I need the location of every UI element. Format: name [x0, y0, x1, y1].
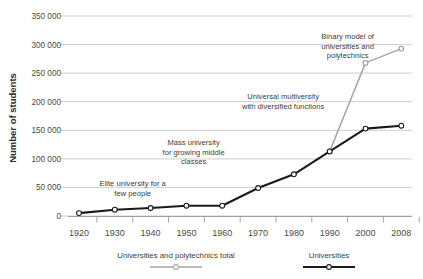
x-axis-tick-label: 2000: [355, 228, 375, 238]
x-axis-tickmarks: [97, 217, 419, 223]
y-axis-tick-label: 200 000: [31, 98, 61, 107]
x-axis-tick-label: 1920: [69, 228, 89, 238]
y-axis-tick-label: 250 000: [31, 69, 61, 78]
x-axis-tick-label: 1930: [105, 228, 125, 238]
universities-point: [112, 207, 117, 212]
universities-point: [184, 203, 189, 208]
x-axis-tick-label: 1970: [248, 228, 268, 238]
y-axis-tick-label: 150 000: [31, 126, 61, 135]
y-axis-tick-label: 50 000: [36, 183, 61, 192]
total-point: [363, 61, 368, 66]
total-point: [399, 46, 404, 51]
y-axis-tick-label: 100 000: [31, 155, 61, 164]
annotation-line: Elite university for a: [100, 179, 167, 188]
universities-point: [220, 203, 225, 208]
universities-point: [77, 211, 82, 216]
annotation-line: polytechnics: [327, 51, 369, 60]
universities-line: [79, 126, 401, 213]
legend-label: Universities and polytechnics total: [117, 251, 235, 260]
series-universities: [77, 123, 404, 215]
annotation-line: few people: [114, 189, 151, 198]
legend-swatch-marker: [174, 265, 179, 270]
chart-annotations: Elite university for afew peopleMass uni…: [100, 32, 375, 198]
x-axis-tick-label: 1990: [320, 228, 340, 238]
annotation-line: universities and: [321, 42, 374, 51]
universities-point: [363, 126, 368, 131]
line-chart: 350 000300 000250 000200 000150 000100 0…: [0, 0, 423, 279]
y-axis-tick-label: 350 000: [31, 12, 61, 21]
universities-point: [148, 206, 153, 211]
y-axis-tick-label: 300 000: [31, 41, 61, 50]
y-axis-tick-label: 0: [56, 212, 61, 221]
x-axis-tick-labels: 1920193019401950196019701980199020002008: [69, 228, 411, 238]
x-axis-tick-label: 1950: [176, 228, 196, 238]
annotation-line: Mass university: [167, 138, 220, 147]
universities-point: [399, 123, 404, 128]
universities-point: [292, 172, 297, 177]
annotation-line: Universal multiversity: [247, 92, 319, 101]
x-axis-tick-label: 2008: [391, 228, 411, 238]
legend-swatch-marker: [327, 265, 332, 270]
y-axis-title: Number of students: [7, 73, 18, 163]
annotation-line: classes: [181, 157, 207, 166]
x-axis-tick-label: 1940: [141, 228, 161, 238]
annotation-line: for growing middle: [163, 148, 225, 157]
chart-legend: Universities and polytechnics totalUnive…: [117, 251, 355, 269]
series-universities-and-polytechnics-total: [327, 46, 403, 154]
annotation-line: with diversified functions: [241, 102, 325, 111]
universities-point: [256, 186, 261, 191]
chart-container: 350 000300 000250 000200 000150 000100 0…: [0, 0, 423, 279]
y-axis-tick-labels: 350 000300 000250 000200 000150 000100 0…: [31, 12, 61, 221]
annotation-binary-model: Binary model ofuniversities andpolytechn…: [321, 32, 375, 60]
universities-point: [327, 149, 332, 154]
annotation-mass-university: Mass universityfor growing middleclasses: [163, 138, 225, 166]
annotation-line: Binary model of: [321, 32, 375, 41]
annotation-universal-multiversity: Universal multiversitywith diversified f…: [241, 92, 325, 111]
annotation-elite-university: Elite university for afew people: [100, 179, 167, 198]
x-axis-tick-label: 1960: [212, 228, 232, 238]
legend-label: Universities: [309, 251, 349, 260]
x-axis-tick-label: 1980: [284, 228, 304, 238]
